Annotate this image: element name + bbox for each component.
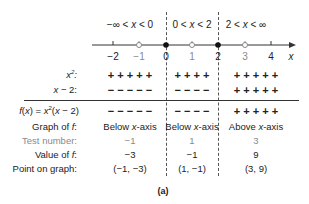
- figure-caption: (a): [158, 186, 169, 196]
- tick-label: 2: [215, 51, 221, 62]
- sign-cell: − − − − −: [108, 105, 152, 117]
- arrow-right-icon: [289, 42, 296, 48]
- open-circle-icon: [243, 41, 248, 48]
- axis-label-x: x: [289, 51, 294, 62]
- open-circle-icon: [137, 41, 142, 48]
- filled-circle-icon: [163, 42, 169, 48]
- row-label-point: Point on graph:: [13, 163, 77, 174]
- point-cell: (3, 9): [245, 163, 267, 174]
- point-cell: (1, −1): [178, 163, 206, 174]
- sign-cell: + + + + +: [234, 69, 278, 81]
- row-label-f: f(x) = x2(x − 2): [19, 105, 79, 116]
- product-rule-line: [24, 100, 299, 101]
- value-cell: −3: [125, 149, 136, 160]
- sign-cell: − − − −: [175, 84, 210, 96]
- row-label-graph: Graph of f:: [32, 121, 77, 132]
- test-number-cell: −1: [125, 135, 136, 146]
- value-cell: 9: [253, 149, 258, 160]
- graph-cell: Below x-axis: [165, 121, 218, 132]
- tick-label: −2: [107, 51, 118, 62]
- sign-cell: + + + + +: [234, 84, 278, 96]
- row-label-x-squared: x2:: [66, 69, 77, 80]
- point-cell: (−1, −3): [113, 163, 146, 174]
- tick-label: 3: [242, 51, 248, 62]
- sign-cell: + + + +: [175, 69, 210, 81]
- open-circle-icon: [190, 41, 195, 48]
- graph-cell: Below x-axis: [103, 121, 156, 132]
- sign-cell: − − − − −: [108, 84, 152, 96]
- row-label-x-minus-2: x − 2:: [54, 84, 78, 95]
- tick-label: 4: [268, 51, 274, 62]
- test-number-cell: 1: [189, 135, 194, 146]
- sign-cell: + + + + +: [108, 69, 152, 81]
- value-cell: −1: [187, 149, 198, 160]
- row-label-test-number: Test number:: [22, 135, 77, 146]
- number-line: [0, 0, 309, 70]
- sign-cell: − − − −: [175, 105, 210, 117]
- tick-label: −1: [133, 51, 144, 62]
- row-label-value: Value of f:: [35, 149, 77, 160]
- sign-cell: + + + + +: [234, 105, 278, 117]
- tick-label: 0: [163, 51, 169, 62]
- tick-label: 1: [189, 51, 195, 62]
- graph-cell: Above x-axis: [229, 121, 283, 132]
- test-number-cell: 3: [253, 135, 258, 146]
- filled-circle-icon: [215, 42, 221, 48]
